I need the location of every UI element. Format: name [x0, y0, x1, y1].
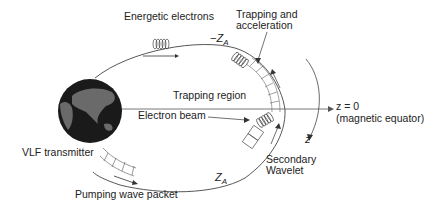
label-magnetic-equator: (magnetic equator): [336, 113, 424, 124]
label-trapping-region: Trapping region: [173, 90, 246, 101]
electron-direction-arrow-icon: [175, 54, 179, 58]
label-vlf-transmitter: VLF transmitter: [22, 147, 94, 158]
pumping-wave-packet: [100, 148, 136, 176]
label-electron-beam: Electron beam: [138, 110, 206, 121]
secondary-pointer-arrow-icon: [275, 123, 281, 129]
z-axis-curve: [306, 59, 319, 137]
label-minus-za: −ZA: [210, 33, 229, 48]
minus-za-sub: A: [223, 38, 228, 47]
minus-za-text: −Z: [210, 32, 223, 44]
label-energetic-electrons: Energetic electrons: [124, 11, 214, 22]
trapping-electron-bunch-icon: [231, 51, 250, 68]
label-pumping-wave-packet: Pumping wave packet: [75, 189, 178, 200]
secondary-electron-bunch-icon: [256, 112, 275, 129]
za-text: Z: [215, 171, 222, 183]
earth-globe-icon: [58, 79, 122, 143]
label-z-equals-zero: z = 0: [336, 101, 359, 112]
trapping-region-band: [246, 58, 280, 112]
equator-arrow-icon: [328, 106, 334, 112]
upward-arrow-icon: [270, 69, 276, 75]
za-sub: A: [222, 177, 227, 186]
label-wavelet: Wavelet: [266, 165, 304, 176]
secondary-wavelet-packet: [242, 125, 263, 148]
energetic-electron-bunch-icon: [153, 39, 169, 49]
label-acceleration: acceleration: [236, 20, 293, 31]
label-za: ZA: [215, 172, 227, 187]
label-z-axis: z: [305, 134, 311, 145]
pumping-direction-arrow-icon: [132, 180, 138, 185]
electron-beam-arrow-icon: [244, 117, 250, 123]
